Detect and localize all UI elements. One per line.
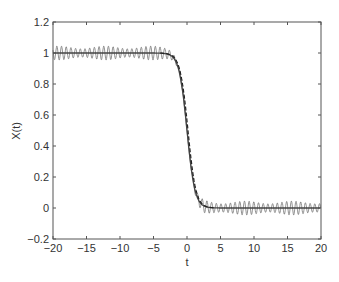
y-tick-label: 0.4 bbox=[34, 140, 49, 152]
x-axis-ticks: −20−15−10−505101520 bbox=[44, 22, 327, 254]
x-tick-label: −5 bbox=[147, 242, 160, 254]
y-tick-label: 0.8 bbox=[34, 78, 49, 90]
y-tick-label: 1 bbox=[43, 47, 49, 59]
y-tick-label: 0.6 bbox=[34, 109, 49, 121]
y-tick-label: 0.2 bbox=[34, 171, 49, 183]
y-axis-label: X(t) bbox=[10, 122, 22, 140]
y-tick-label: 0 bbox=[43, 202, 49, 214]
x-tick-label: 0 bbox=[184, 242, 190, 254]
smooth-curve bbox=[53, 53, 320, 208]
x-tick-label: 5 bbox=[217, 242, 223, 254]
x-tick-label: −15 bbox=[77, 242, 96, 254]
chart: −20−15−10−505101520 −0.200.20.40.60.811.… bbox=[0, 0, 339, 282]
x-tick-label: −10 bbox=[111, 242, 130, 254]
x-axis-label: t bbox=[185, 256, 188, 268]
y-tick-label: −0.2 bbox=[27, 233, 49, 245]
x-tick-label: 20 bbox=[315, 242, 327, 254]
y-tick-label: 1.2 bbox=[34, 16, 49, 28]
x-tick-label: 10 bbox=[248, 242, 260, 254]
plot-area bbox=[53, 46, 321, 215]
x-tick-label: 15 bbox=[281, 242, 293, 254]
